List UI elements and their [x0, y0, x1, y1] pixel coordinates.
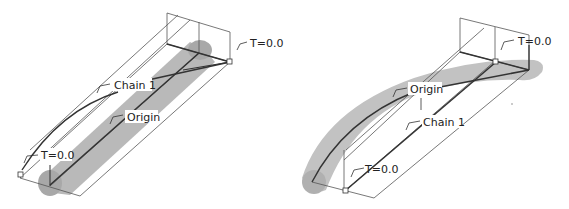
label-chain: Chain 1	[97, 78, 156, 93]
left-view: T=0.0 Chain 1 Origin T=0.0	[0, 0, 285, 209]
label-t-top: T=0.0	[237, 37, 283, 50]
label-t-top: T=0.0	[501, 35, 551, 50]
t-top-text: T=0.0	[249, 37, 283, 50]
origin-text: Origin	[410, 83, 443, 96]
swept-start-cap	[188, 40, 212, 60]
stray-dot	[511, 103, 513, 105]
label-t-bottom: T=0.0	[24, 148, 74, 163]
t-top-text: T=0.0	[517, 35, 551, 48]
end-point-marker	[343, 188, 348, 193]
t-bottom-text: T=0.0	[364, 163, 398, 176]
chain-text: Chain 1	[114, 79, 156, 92]
reference-frame	[312, 18, 529, 198]
origin-text: Origin	[127, 111, 160, 124]
start-point-marker	[493, 59, 498, 64]
origin-trajectory	[50, 53, 199, 185]
swept-end-cap	[302, 170, 326, 194]
label-t-bottom: T=0.0	[351, 163, 398, 177]
t-bottom-text: T=0.0	[40, 149, 74, 162]
label-chain: Chain 1	[406, 115, 465, 130]
right-view: T=0.0 Origin Chain 1 T=0.0	[284, 0, 569, 209]
right-view-canvas: T=0.0 Origin Chain 1 T=0.0	[284, 0, 569, 209]
chain-text: Chain 1	[423, 116, 465, 129]
start-point-marker	[227, 59, 232, 64]
end-point-marker	[18, 172, 23, 177]
left-view-canvas: T=0.0 Chain 1 Origin T=0.0	[0, 0, 285, 209]
